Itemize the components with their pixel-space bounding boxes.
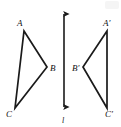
vertex-label-b: B	[50, 64, 56, 73]
scan-artifact	[105, 1, 119, 9]
vertex-label-b-prime: B′	[72, 64, 79, 73]
vertex-label-a-prime: A′	[103, 19, 110, 28]
triangle-abc	[15, 31, 47, 108]
geometry-figure: A B C A′ B′ C′ l	[0, 0, 121, 127]
vertex-label-a: A	[17, 19, 23, 28]
triangle-a-prime-b-prime-c-prime	[83, 31, 107, 108]
vertex-label-c: C	[6, 110, 12, 119]
vertex-label-c-prime: C′	[105, 110, 113, 119]
line-of-reflection-label: l	[62, 117, 64, 125]
